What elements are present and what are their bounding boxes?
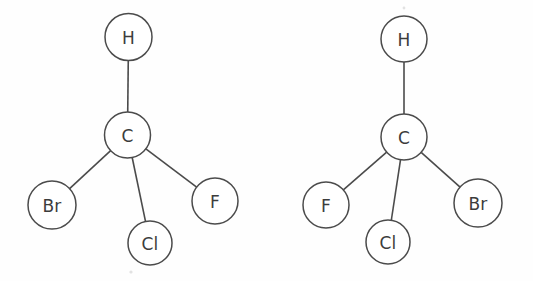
bond-left-c-h — [128, 61, 129, 113]
atom-h-left-circle[interactable] — [105, 14, 152, 61]
bond-left-c-br — [70, 151, 111, 189]
atom-br-right[interactable]: Br — [454, 179, 502, 227]
atom-br-left[interactable]: Br — [28, 181, 76, 229]
atoms-layer: HCBrClFHCFClBr — [28, 14, 502, 266]
bromochlorofluoromethane-enantiomer-left-atoms: HCBrClF — [28, 14, 238, 266]
atom-c-left-circle[interactable] — [105, 112, 151, 158]
atom-cl-left-circle[interactable] — [128, 221, 172, 265]
atom-cl-left[interactable]: Cl — [128, 221, 172, 265]
atom-f-left[interactable]: F — [192, 178, 238, 224]
atom-f-right-circle[interactable] — [303, 182, 349, 228]
bromochlorofluoromethane-enantiomer-right-atoms: HCFClBr — [303, 16, 502, 264]
atom-f-left-circle[interactable] — [192, 178, 238, 224]
atom-br-right-circle[interactable] — [454, 179, 502, 227]
atom-c-right[interactable]: C — [381, 114, 427, 160]
atom-c-left[interactable]: C — [105, 112, 151, 158]
bond-right-c-cl — [391, 160, 400, 221]
atom-br-left-circle[interactable] — [28, 181, 76, 229]
atom-cl-right[interactable]: Cl — [366, 220, 410, 264]
speck-1 — [129, 270, 132, 273]
atom-h-right-circle[interactable] — [381, 16, 427, 62]
speck-2 — [403, 7, 406, 10]
bond-left-c-f — [146, 149, 197, 187]
atom-c-right-circle[interactable] — [381, 114, 427, 160]
atom-h-left[interactable]: H — [105, 14, 152, 61]
artifact-specks-layer — [129, 7, 405, 274]
bond-left-c-cl — [132, 158, 145, 222]
molecule-diagram: HCBrClFHCFClBr — [0, 0, 533, 281]
molecule-canvas: HCBrClFHCFClBr — [0, 0, 533, 281]
bond-right-c-br — [421, 152, 460, 187]
atom-h-right[interactable]: H — [381, 16, 427, 62]
bond-right-c-f — [343, 152, 386, 190]
atom-f-right[interactable]: F — [303, 182, 349, 228]
atom-cl-right-circle[interactable] — [366, 220, 410, 264]
